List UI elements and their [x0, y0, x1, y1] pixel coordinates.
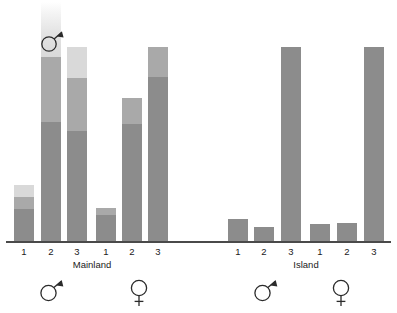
- bar-mainland-female-1: [96, 208, 116, 243]
- x-tick-label-5: 2: [123, 246, 141, 258]
- sex-symbol-mainland-male: [38, 278, 66, 304]
- bar-island-male-3: [281, 47, 301, 243]
- bar-mainland-male-1: [14, 185, 34, 243]
- bar-island-female-2: [337, 223, 357, 243]
- segment-class-dark: [41, 122, 61, 243]
- x-tick-label-9: 3: [282, 246, 300, 258]
- segment-class-medium: [67, 78, 87, 131]
- bar-island-female-3: [364, 47, 384, 243]
- x-tick-label-8: 2: [255, 246, 273, 258]
- segment-class-light: [14, 185, 34, 197]
- sex-symbol-island-female: [330, 278, 352, 308]
- sex-symbol-mainland-female: [128, 278, 150, 308]
- segment-class-dark: [67, 131, 87, 243]
- bar-mainland-female-2: [122, 98, 142, 243]
- segment-class-dark: [364, 47, 384, 243]
- segment-class-dark: [96, 215, 116, 243]
- segment-class-dark: [122, 124, 142, 243]
- segment-class-light: [67, 47, 87, 78]
- segment-class-dark: [228, 219, 248, 243]
- segment-class-dark: [14, 209, 34, 243]
- segment-class-medium: [41, 57, 61, 122]
- x-tick-label-7: 1: [229, 246, 247, 258]
- segment-class-dark: [281, 47, 301, 243]
- x-tick-label-10: 1: [311, 246, 329, 258]
- segment-class-dark: [337, 223, 357, 243]
- x-tick-label-2: 2: [42, 246, 60, 258]
- segment-class-medium: [96, 208, 116, 215]
- x-tick-label-6: 3: [149, 246, 167, 258]
- x-axis-line: [6, 241, 391, 243]
- sex-symbol-island-male: [252, 278, 280, 304]
- male-symbol-overlay-annotation: [39, 30, 67, 54]
- bar-island-male-1: [228, 219, 248, 243]
- segment-class-dark: [148, 77, 168, 243]
- bar-mainland-male-3: [67, 47, 87, 243]
- plot-area: [0, 0, 397, 243]
- segment-class-medium: [14, 197, 34, 209]
- stacked-bar-chart: 1 2 3 1 2 3 1 2 3 1 2 3 Mainland Island: [0, 0, 397, 313]
- x-tick-label-4: 1: [97, 246, 115, 258]
- bar-mainland-female-3: [148, 47, 168, 243]
- x-tick-label-1: 1: [15, 246, 33, 258]
- segment-class-medium: [122, 98, 142, 124]
- segment-class-medium: [148, 47, 168, 77]
- x-tick-label-3: 3: [68, 246, 86, 258]
- x-tick-label-11: 2: [338, 246, 356, 258]
- region-label-island: Island: [266, 259, 346, 271]
- x-tick-label-12: 3: [365, 246, 383, 258]
- region-label-mainland: Mainland: [52, 259, 132, 271]
